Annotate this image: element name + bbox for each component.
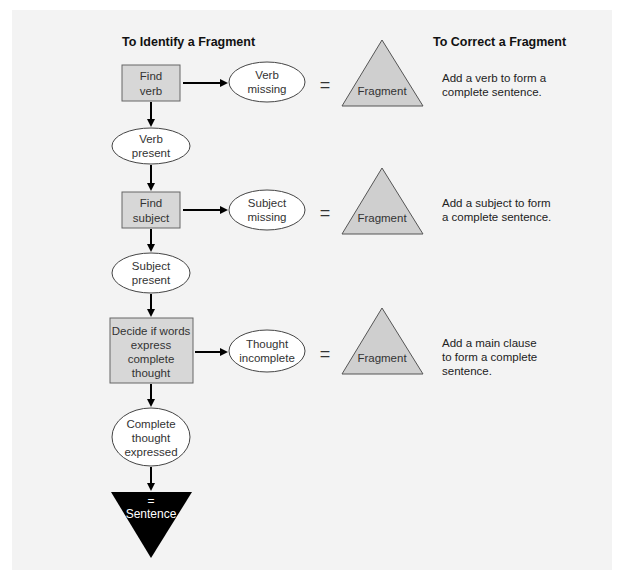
- fragment-triangle: Fragment: [342, 40, 423, 106]
- decide-thought-box: Decide if words express complete thought: [110, 318, 193, 383]
- svg-text:to form a complete: to form a complete: [442, 351, 537, 363]
- svg-text:Fragment: Fragment: [357, 212, 407, 224]
- svg-text:expressed: expressed: [124, 446, 177, 458]
- subject-missing-ellipse: Subject missing: [229, 190, 305, 230]
- correction-text: Add a verb to form a complete sentence.: [442, 72, 547, 98]
- svg-text:Add a verb to form a: Add a verb to form a: [442, 72, 547, 84]
- svg-text:Add a subject to form: Add a subject to form: [442, 197, 551, 209]
- svg-text:Verb: Verb: [139, 133, 163, 145]
- equals-sign: =: [320, 344, 331, 364]
- svg-text:Subject: Subject: [248, 197, 287, 209]
- svg-text:Subject: Subject: [132, 260, 171, 272]
- svg-text:complete: complete: [128, 353, 175, 365]
- equals-sign: =: [320, 75, 331, 95]
- identify-heading: To Identify a Fragment: [122, 35, 256, 49]
- thought-incomplete-ellipse: Thought incomplete: [229, 330, 305, 372]
- svg-text:missing: missing: [248, 211, 287, 223]
- svg-text:express: express: [131, 339, 172, 351]
- fragment-flowchart: To Identify a Fragment To Correct a Frag…: [0, 0, 622, 580]
- svg-text:Thought: Thought: [246, 338, 289, 350]
- complete-thought-ellipse: Complete thought expressed: [112, 408, 190, 466]
- svg-text:missing: missing: [248, 83, 287, 95]
- sentence-triangle: = Sentence: [111, 492, 192, 558]
- verb-missing-ellipse: Verb missing: [229, 62, 305, 102]
- verb-present-ellipse: Verb present: [112, 128, 190, 164]
- svg-text:Find: Find: [140, 70, 162, 82]
- svg-text:thought: thought: [132, 367, 171, 379]
- svg-text:present: present: [132, 147, 171, 159]
- svg-text:incomplete: incomplete: [239, 352, 295, 364]
- svg-text:Fragment: Fragment: [357, 85, 407, 97]
- svg-text:Decide if words: Decide if words: [112, 325, 191, 337]
- fragment-triangle: Fragment: [342, 308, 423, 374]
- equals-sign: =: [320, 203, 331, 223]
- subject-present-ellipse: Subject present: [112, 253, 190, 293]
- svg-text:Complete: Complete: [126, 418, 175, 430]
- find-verb-box: Find verb: [122, 65, 180, 101]
- svg-text:present: present: [132, 274, 171, 286]
- svg-text:Sentence: Sentence: [126, 507, 177, 521]
- svg-text:subject: subject: [133, 212, 170, 224]
- svg-text:Fragment: Fragment: [357, 352, 407, 364]
- correction-text: Add a main clause to form a complete sen…: [442, 337, 537, 377]
- correct-heading: To Correct a Fragment: [433, 35, 567, 49]
- svg-text:a complete sentence.: a complete sentence.: [442, 211, 551, 223]
- svg-text:complete sentence.: complete sentence.: [442, 86, 542, 98]
- svg-text:sentence.: sentence.: [442, 365, 492, 377]
- svg-text:thought: thought: [132, 432, 171, 444]
- find-subject-box: Find subject: [122, 192, 180, 228]
- svg-text:Find: Find: [140, 197, 162, 209]
- svg-text:=: =: [147, 494, 154, 508]
- fragment-triangle: Fragment: [342, 168, 423, 234]
- svg-text:verb: verb: [140, 85, 162, 97]
- svg-text:Verb: Verb: [255, 69, 279, 81]
- svg-text:Add a main clause: Add a main clause: [442, 337, 537, 349]
- correction-text: Add a subject to form a complete sentenc…: [442, 197, 551, 223]
